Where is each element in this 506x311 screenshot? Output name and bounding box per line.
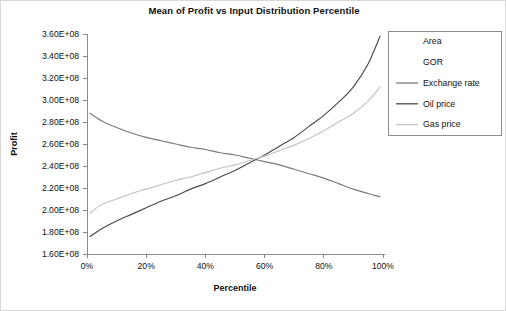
y-axis: 3.60E+083.40E+083.20E+083.00E+082.80E+08… (42, 29, 87, 259)
y-axis-tick-label: 2.00E+08 (42, 205, 79, 215)
legend-label-gor: GOR (423, 57, 443, 67)
chart-plot-svg: 3.60E+083.40E+083.20E+083.00E+082.80E+08… (1, 1, 506, 311)
series-line-exchange-rate (90, 113, 380, 197)
data-series-group (90, 36, 380, 236)
y-axis-ticks: 3.60E+083.40E+083.20E+083.00E+082.80E+08… (42, 29, 87, 259)
x-axis-tick-label: 0% (81, 261, 94, 271)
legend-label-exchange-rate: Exchange rate (423, 78, 480, 88)
y-axis-tick-label: 2.40E+08 (42, 161, 79, 171)
chart-legend: AreaGORExchange rateOil priceGas price (388, 31, 501, 135)
series-line-oil-price (90, 36, 380, 236)
x-axis-ticks: 0%20%40%60%80%100% (81, 254, 395, 271)
y-axis-tick-label: 1.60E+08 (42, 249, 79, 259)
x-axis-title: Percentile (213, 283, 256, 293)
y-axis-title: Profit (9, 132, 19, 156)
y-axis-tick-label: 3.60E+08 (42, 29, 79, 39)
chart-container: Mean of Profit vs Input Distribution Per… (0, 0, 506, 311)
x-axis-tick-label: 60% (256, 261, 274, 271)
x-axis: 0%20%40%60%80%100% (81, 254, 395, 271)
y-axis-tick-label: 2.20E+08 (42, 183, 79, 193)
series-line-gas-price (90, 87, 380, 214)
y-axis-tick-label: 2.60E+08 (42, 139, 79, 149)
legend-label-area: Area (423, 36, 442, 46)
x-axis-tick-label: 40% (197, 261, 215, 271)
legend-label-gas-price: Gas price (423, 119, 461, 129)
y-axis-tick-label: 3.40E+08 (42, 51, 79, 61)
legend-label-oil-price: Oil price (423, 99, 455, 109)
y-axis-tick-label: 3.20E+08 (42, 73, 79, 83)
x-axis-tick-label: 80% (315, 261, 333, 271)
y-axis-tick-label: 2.80E+08 (42, 117, 79, 127)
y-axis-tick-label: 1.80E+08 (42, 227, 79, 237)
x-axis-tick-label: 20% (138, 261, 156, 271)
x-axis-tick-label: 100% (372, 261, 394, 271)
y-axis-tick-label: 3.00E+08 (42, 95, 79, 105)
